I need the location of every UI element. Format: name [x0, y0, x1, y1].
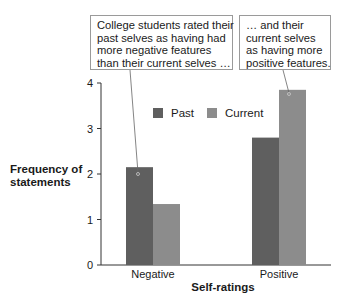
y-ticks: [97, 83, 101, 265]
y-tick-label: 3: [81, 123, 93, 135]
leader-line-1: [130, 70, 138, 173]
bar-chart-plot: [0, 0, 344, 302]
legend-item-current: Current: [207, 107, 263, 119]
y-tick-label: 1: [81, 214, 93, 226]
y-axis-label-line: statements: [10, 176, 82, 189]
bar-negative-current: [153, 204, 180, 265]
bar-positive-past: [252, 138, 279, 265]
category-label-positive: Positive: [239, 268, 319, 280]
legend-item-past: Past: [153, 107, 194, 119]
y-tick-label: 2: [81, 168, 93, 180]
bar-negative-past: [126, 167, 153, 265]
y-axis-label: Frequency of statements: [10, 163, 82, 189]
y-tick-label: 0: [81, 259, 93, 271]
leader-line-2: [283, 70, 289, 93]
x-axis-label: Self-ratings: [178, 281, 268, 293]
y-axis-label-line: Frequency of: [10, 163, 82, 176]
legend-label-current: Current: [225, 107, 263, 119]
category-label-negative: Negative: [113, 268, 193, 280]
y-tick-label: 4: [81, 77, 93, 89]
legend-label-past: Past: [171, 107, 194, 119]
bar-positive-current: [279, 90, 306, 265]
legend-swatch-current: [207, 108, 217, 118]
legend-swatch-past: [153, 108, 163, 118]
